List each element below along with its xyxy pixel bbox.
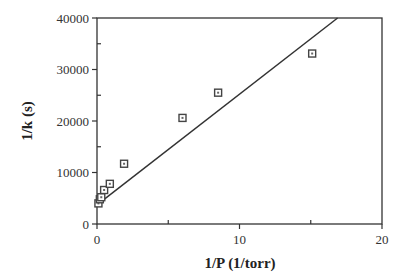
y-tick-label: 20000 <box>57 114 90 129</box>
x-tick-label: 10 <box>233 232 246 247</box>
data-point-center <box>123 163 125 165</box>
data-point-center <box>100 196 102 198</box>
plot-frame <box>97 18 382 224</box>
y-tick-label: 0 <box>83 217 90 232</box>
y-tick-label: 30000 <box>57 62 90 77</box>
y-axis-label: 1/k (s) <box>19 101 36 141</box>
data-point-center <box>109 183 111 185</box>
chart: 01000020000300004000001020 1/P (1/torr) … <box>0 0 406 280</box>
plot-area <box>97 18 382 224</box>
x-tick-label: 20 <box>376 232 389 247</box>
y-tick-label: 40000 <box>57 11 90 26</box>
x-tick-label: 0 <box>94 232 101 247</box>
y-tick-label: 10000 <box>57 165 90 180</box>
fit-line <box>97 18 338 205</box>
data-point-center <box>182 117 184 119</box>
data-point-center <box>311 53 313 55</box>
data-point-center <box>103 189 105 191</box>
x-axis-label: 1/P (1/torr) <box>204 255 275 272</box>
data-point-center <box>217 92 219 94</box>
